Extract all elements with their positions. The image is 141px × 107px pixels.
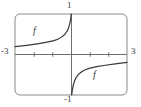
curve-annotation-lower: f [93, 70, 96, 80]
curve-annotation-upper: f [33, 26, 36, 36]
curve-upper-left [15, 14, 71, 46]
plot-canvas [0, 0, 141, 107]
function-graph-figure: 1 -1 -3 3 f f [0, 0, 141, 107]
x-axis-label-right: 3 [131, 47, 136, 56]
y-axis-label-bottom: -1 [64, 95, 72, 104]
x-axis-label-left: -3 [1, 47, 9, 56]
y-axis-label-top: 1 [67, 1, 72, 10]
curve-lower-right [72, 62, 127, 94]
